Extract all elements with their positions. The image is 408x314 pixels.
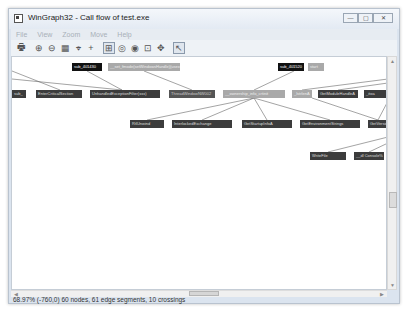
graph-node[interactable]: start [308,63,324,71]
status-bar: 68.97% (-760,0) 60 nodes, 61 edge segmen… [11,296,397,304]
window-title: WinGraph32 - Call flow of test.exe [28,13,149,22]
graph-node[interactable]: WriteFile [310,152,346,160]
graph-node[interactable]: UnhandledExceptionFilter(xxx) [90,90,160,98]
graph-node[interactable]: RtlUnwind [130,120,164,128]
menu-move[interactable]: Move [90,29,107,40]
graph-node[interactable]: __ownership_info_crtinit [223,90,285,98]
menu-view[interactable]: View [37,29,52,40]
graph-canvas[interactable]: sub_401430 __set_fmode(setWindowsHandle)… [11,56,387,290]
graph-node[interactable]: _lstrlenA [292,90,312,98]
vertical-scroll-thumb[interactable] [389,192,397,208]
graph-node[interactable]: sub_401430 [72,63,102,71]
maximize-button[interactable]: ▢ [358,13,373,23]
graph-node[interactable]: __dl Console% [354,152,384,160]
graph-node[interactable]: _itoa [364,90,386,98]
select-icon[interactable]: ↖ [173,42,185,54]
menu-bar: File View Zoom Move Help [11,29,397,40]
scroll-up-icon[interactable]: ▲ [390,58,395,64]
menu-help[interactable]: Help [117,29,131,40]
graph-node[interactable]: sub_401520 [278,63,304,71]
graph-node[interactable]: __set_fmode(setWindowsHandle)(usexxxxx) [108,63,180,71]
rotate-icon[interactable]: ◎ [116,42,128,54]
move-icon[interactable]: ✥ [155,42,167,54]
graph-node[interactable]: InterlockedExchange [172,120,232,128]
graph-node[interactable]: GetStartupInfoA [242,120,292,128]
toolbar: 🖶 ⊕ ⊖ ▦ ⌖ + ⊞ ◎ ◉ ⊡ ✥ ↖ [11,40,397,56]
graph-node[interactable]: GetEnvironmentStrings [300,120,360,128]
graph-node[interactable]: GetModuleHandleA [318,90,358,98]
app-icon [14,14,23,23]
graph-node[interactable]: sub_ [12,90,26,98]
vertical-scrollbar[interactable]: ▲ ▼ [387,56,397,290]
menu-file[interactable]: File [16,29,27,40]
menu-zoom[interactable]: Zoom [62,29,80,40]
fit-icon[interactable]: ▦ [59,42,71,54]
title-bar: WinGraph32 - Call flow of test.exe — ▢ ✕ [9,9,399,29]
zoom-out-icon[interactable]: ⊖ [46,42,58,54]
nodes-icon[interactable]: ⊡ [142,42,154,54]
layout-icon[interactable]: ⊞ [103,42,115,54]
crosshair-icon[interactable]: + [85,42,97,54]
close-button[interactable]: ✕ [373,13,393,23]
fisheye-icon[interactable]: ◉ [129,42,141,54]
graph-node[interactable]: EnterCriticalSection [36,90,82,98]
scroll-down-icon[interactable]: ▼ [390,282,395,288]
graph-node[interactable]: ThreadWindowNW002 [169,90,215,98]
app-window: WinGraph32 - Call flow of test.exe — ▢ ✕… [8,8,400,304]
zoom-in-icon[interactable]: ⊕ [33,42,45,54]
minimize-button[interactable]: — [343,13,358,23]
graph-node[interactable]: GetVersion [368,120,387,128]
print-icon[interactable]: 🖶 [15,42,27,54]
zoom-rect-icon[interactable]: ⌖ [72,42,84,54]
